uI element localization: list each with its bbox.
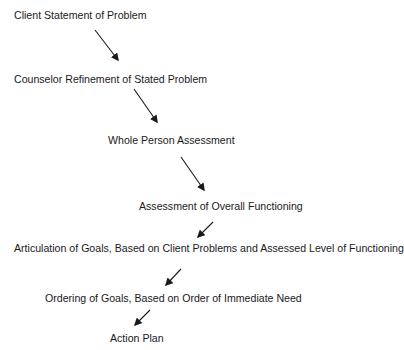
step-overall-functioning: Assessment of Overall Functioning	[139, 200, 303, 212]
step-action-plan: Action Plan	[110, 332, 164, 344]
step-articulation-of-goals: Articulation of Goals, Based on Client P…	[14, 242, 404, 254]
step-counselor-refinement: Counselor Refinement of Stated Problem	[14, 73, 207, 85]
step-ordering-of-goals: Ordering of Goals, Based on Order of Imm…	[45, 292, 302, 304]
flow-diagram: Client Statement of Problem Counselor Re…	[0, 0, 404, 350]
arrow-down-left-icon	[166, 269, 181, 285]
arrow-down-right-icon	[134, 89, 157, 122]
arrow-down-left-icon	[135, 310, 150, 325]
arrow-down-right-icon	[95, 30, 118, 60]
arrow-down-right-icon	[181, 157, 204, 190]
arrow-down-left-icon	[198, 222, 213, 237]
step-client-statement: Client Statement of Problem	[14, 9, 146, 21]
step-whole-person-assessment: Whole Person Assessment	[108, 134, 235, 146]
